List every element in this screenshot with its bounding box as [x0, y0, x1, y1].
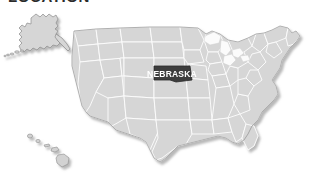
alaska-inset[interactable]: [4, 14, 70, 57]
hawaii-kauai: [27, 134, 32, 138]
united-states-map[interactable]: NEBRASKA: [0, 0, 318, 184]
hawaii-molokai: [44, 144, 50, 147]
contiguous-states[interactable]: NEBRASKA: [72, 26, 300, 162]
aleutian-islands: [4, 50, 24, 57]
hawaii-bigisland: [56, 154, 69, 167]
nebraska-label: NEBRASKA: [147, 69, 197, 79]
hawaii-inset[interactable]: [27, 134, 69, 167]
alaska-landmass: [19, 14, 60, 52]
hawaii-oahu: [36, 139, 40, 142]
highlighted-state-nebraska[interactable]: NEBRASKA: [147, 66, 197, 82]
location-map-figure: LOCATION: [0, 0, 318, 184]
hawaii-maui: [51, 147, 59, 152]
map-container: NEBRASKA: [0, 0, 318, 184]
